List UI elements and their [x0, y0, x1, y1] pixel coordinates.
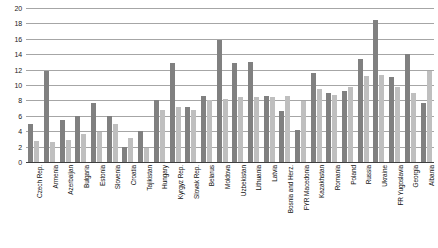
- bar: [342, 91, 347, 162]
- bar: [113, 124, 118, 163]
- bar-group: [73, 8, 89, 162]
- bar-group: [308, 8, 324, 162]
- bar: [248, 62, 253, 162]
- plot-area: [26, 8, 434, 162]
- x-axis-labels: Czech Rep.ArmeniaAzerbaijanBulgariaEston…: [26, 163, 434, 248]
- bar-groups: [26, 8, 434, 162]
- bar-group: [293, 8, 309, 162]
- y-axis-tick-label: 2: [18, 143, 22, 150]
- bar: [279, 111, 284, 162]
- x-axis-label-cell: Azerbaijan: [57, 163, 73, 248]
- x-axis-label-cell: Ukraine: [371, 163, 387, 248]
- bar-group: [340, 8, 356, 162]
- bar: [66, 140, 71, 162]
- bar-group: [167, 8, 183, 162]
- x-axis-label-cell: Kyrgyz Rep.: [167, 163, 183, 248]
- bar-group: [199, 8, 215, 162]
- bar: [107, 116, 112, 162]
- bar: [411, 93, 416, 162]
- x-axis-label-cell: Kazakhstan: [308, 163, 324, 248]
- bar: [34, 141, 39, 162]
- bar-group: [26, 8, 42, 162]
- bar: [191, 110, 196, 162]
- bar: [311, 73, 316, 162]
- x-axis-label-cell: Bulgaria: [73, 163, 89, 248]
- bar-group: [214, 8, 230, 162]
- x-axis-label-cell: Albania: [418, 163, 434, 248]
- y-axis-tick-label: 10: [15, 82, 22, 89]
- bar: [421, 103, 426, 162]
- bar: [379, 75, 384, 162]
- bar: [154, 100, 159, 162]
- x-axis-label-cell: Georgia: [403, 163, 419, 248]
- bar-group: [277, 8, 293, 162]
- x-axis-label-cell: Belarus: [199, 163, 215, 248]
- bar: [348, 87, 353, 162]
- x-axis-label-cell: Poland: [340, 163, 356, 248]
- bar-chart: 02468101214161820 Czech Rep.ArmeniaAzerb…: [0, 0, 438, 248]
- bar: [91, 103, 96, 162]
- bar: [295, 130, 300, 162]
- bar: [405, 54, 410, 162]
- x-axis-label-cell: Tajikistan: [136, 163, 152, 248]
- bar-group: [246, 8, 262, 162]
- bar: [395, 87, 400, 162]
- x-axis-label-cell: Armenia: [42, 163, 58, 248]
- bar: [176, 107, 181, 162]
- y-axis-tick-label: 6: [18, 112, 22, 119]
- bar-group: [57, 8, 73, 162]
- x-axis-label-cell: Russia: [355, 163, 371, 248]
- bar-group: [371, 8, 387, 162]
- x-axis-label-cell: Moldova: [214, 163, 230, 248]
- bar: [326, 93, 331, 162]
- bar: [301, 101, 306, 162]
- bar: [332, 95, 337, 162]
- x-axis-label-cell: Latvia: [261, 163, 277, 248]
- y-axis-tick-label: 8: [18, 97, 22, 104]
- x-axis-label-cell: FYR Macedonia: [293, 163, 309, 248]
- x-axis-label-cell: Bosnia and Herz.: [277, 163, 293, 248]
- bar: [128, 138, 133, 162]
- x-axis-label-cell: Slovenia: [104, 163, 120, 248]
- y-axis-tick-label: 20: [15, 5, 22, 12]
- bar-group: [355, 8, 371, 162]
- bar-group: [403, 8, 419, 162]
- bar: [364, 76, 369, 162]
- y-axis-tick-label: 12: [15, 66, 22, 73]
- bar: [50, 142, 55, 162]
- x-axis-label-cell: Czech Rep.: [26, 163, 42, 248]
- bar: [144, 148, 149, 162]
- bar: [138, 131, 143, 162]
- bar: [317, 89, 322, 162]
- bar-group: [89, 8, 105, 162]
- x-axis-label-cell: Croatia: [120, 163, 136, 248]
- x-axis-label-cell: Uzbekistan: [230, 163, 246, 248]
- bar-group: [183, 8, 199, 162]
- bar: [160, 110, 165, 162]
- x-axis-label-cell: Lithuania: [246, 163, 262, 248]
- bar-group: [387, 8, 403, 162]
- bar-group: [324, 8, 340, 162]
- bar: [427, 71, 432, 162]
- bar: [81, 134, 86, 162]
- bar-group: [418, 8, 434, 162]
- bar-group: [136, 8, 152, 162]
- bar-group: [120, 8, 136, 162]
- bar: [170, 63, 175, 162]
- x-axis-tick-label: Albania: [429, 165, 436, 186]
- bar-group: [104, 8, 120, 162]
- x-axis-label-cell: Estonia: [89, 163, 105, 248]
- bar: [285, 96, 290, 162]
- bar: [185, 107, 190, 162]
- bar: [223, 99, 228, 162]
- bar: [373, 20, 378, 162]
- bar-group: [261, 8, 277, 162]
- x-axis-label-cell: Romania: [324, 163, 340, 248]
- bar: [44, 71, 49, 162]
- bar: [122, 147, 127, 162]
- y-axis: 02468101214161820: [0, 0, 26, 162]
- y-axis-tick-label: 14: [15, 51, 22, 58]
- bar: [201, 96, 206, 162]
- bar: [264, 96, 269, 162]
- y-axis-tick-label: 18: [15, 20, 22, 27]
